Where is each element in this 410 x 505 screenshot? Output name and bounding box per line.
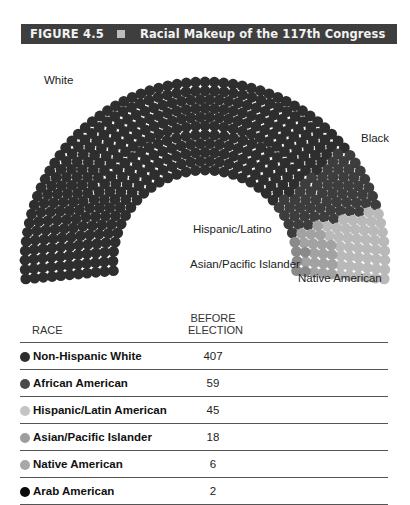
- race-value: 407: [200, 350, 226, 362]
- seat-dot: [363, 207, 374, 218]
- seat-dot: [306, 229, 317, 240]
- seat-dot: [84, 230, 95, 241]
- seat-dot: [59, 223, 70, 234]
- seat-dot: [43, 215, 54, 226]
- seat-dot: [20, 274, 31, 285]
- seat-dot: [101, 237, 112, 248]
- seat-dot: [357, 215, 368, 226]
- seat-dot: [341, 223, 352, 234]
- seat-dot: [291, 246, 302, 257]
- seat-dot: [162, 81, 173, 92]
- legend-dot-icon: [20, 487, 30, 497]
- seat-dot: [94, 229, 105, 240]
- race-name: Native American: [33, 458, 123, 470]
- seat-dot: [190, 165, 201, 176]
- seat-dot: [338, 214, 349, 225]
- legend-dot-icon: [20, 433, 30, 443]
- seat-dot: [172, 123, 183, 134]
- seat-dot: [287, 228, 298, 239]
- seat-dot: [171, 169, 182, 180]
- column-before-election: BEFORE ELECTION: [188, 312, 238, 336]
- seat-dot: [315, 230, 326, 241]
- table-row: Asian/Pacific Islander 18: [20, 424, 388, 451]
- seat-dot: [22, 227, 33, 238]
- legend-dot-icon: [20, 460, 30, 470]
- race-name: Arab American: [33, 485, 114, 497]
- seat-dot: [299, 237, 310, 248]
- column-before-line1: BEFORE: [190, 312, 235, 324]
- label-white: White: [44, 74, 73, 86]
- seat-dot: [237, 90, 248, 101]
- label-native: Native American: [298, 272, 382, 284]
- seat-dot: [228, 133, 239, 144]
- seat-dot: [333, 232, 344, 243]
- seat-dot: [200, 77, 211, 88]
- seat-dot: [50, 224, 61, 235]
- race-name: Hispanic/Latin American: [33, 404, 167, 416]
- race-name: African American: [33, 377, 128, 389]
- seat-dot: [209, 130, 220, 141]
- seat-dot: [190, 77, 201, 88]
- table-row: Native American 6: [20, 451, 388, 478]
- seat-dot: [312, 220, 323, 231]
- table-row: Non-Hispanic White 407: [20, 343, 388, 370]
- seat-dot: [181, 78, 192, 89]
- legend-dot-icon: [20, 379, 30, 389]
- seat-dot: [108, 256, 119, 267]
- seat-dot: [66, 232, 77, 243]
- seat-dot: [322, 221, 333, 232]
- seat-dot: [377, 227, 388, 238]
- race-name: Asian/Pacific Islander: [33, 431, 152, 443]
- seat-dot: [228, 88, 239, 99]
- seat-dot: [289, 237, 300, 248]
- hemicycle-chart: [0, 0, 410, 300]
- race-value: 59: [200, 377, 226, 389]
- seat-dot: [172, 79, 183, 90]
- table-row: Hispanic/Latin American 45: [20, 397, 388, 424]
- seat-dot: [350, 224, 361, 235]
- race-value: 2: [200, 485, 226, 497]
- seat-dot: [303, 220, 314, 231]
- seat-dot: [347, 215, 358, 226]
- race-value: 45: [200, 404, 226, 416]
- seat-dot: [366, 216, 377, 227]
- seat-dot: [108, 246, 119, 257]
- seat-dot: [110, 237, 121, 248]
- seat-dot: [181, 167, 192, 178]
- label-asian: Asian/Pacific Islander: [190, 258, 300, 270]
- legend-dot-icon: [20, 406, 30, 416]
- race-value: 6: [200, 458, 226, 470]
- seat-dot: [354, 206, 365, 217]
- race-name: Non-Hispanic White: [33, 350, 142, 362]
- label-hispanic: Hispanic/Latino: [193, 223, 272, 235]
- column-before-line2: ELECTION: [188, 324, 243, 336]
- seat-dot: [296, 228, 307, 239]
- legend-dot-icon: [20, 352, 30, 362]
- seat-dot: [181, 122, 192, 133]
- table-header: RACE BEFORE ELECTION: [20, 302, 388, 343]
- seat-dot: [162, 126, 173, 137]
- table-row: African American 59: [20, 370, 388, 397]
- seat-dot: [153, 83, 164, 94]
- seat-dot: [219, 87, 230, 98]
- column-race: RACE: [32, 324, 63, 336]
- seat-dot: [219, 131, 230, 142]
- table-row: Arab American 2: [20, 478, 388, 505]
- race-value: 18: [200, 431, 226, 443]
- label-black: Black: [361, 132, 389, 144]
- seat-dot: [24, 218, 35, 229]
